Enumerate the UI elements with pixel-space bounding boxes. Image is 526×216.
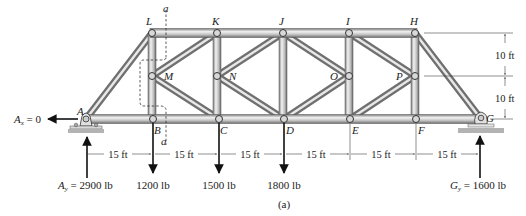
node-label-N: N — [228, 70, 237, 82]
reaction-Ax: Ax = 0 — [13, 113, 78, 127]
truss-diagram: a a L K J I H M N O P A B C D E F G — [0, 0, 526, 216]
node-label-A: A — [76, 105, 84, 117]
svg-text:Ax = 0: Ax = 0 — [13, 113, 42, 127]
svg-text:Gy = 1600 lb: Gy = 1600 lb — [450, 179, 507, 193]
vertical-dim-label-top: 10 ft — [495, 50, 515, 61]
applied-loads: 1200 lb 1500 lb 1800 lb — [136, 123, 301, 191]
node-label-L: L — [145, 15, 152, 27]
node-label-B: B — [154, 124, 161, 136]
node-label-G: G — [486, 112, 494, 124]
horizontal-dimension-labels: 15 ft 15 ft 15 ft 15 ft 15 ft 15 ft — [108, 149, 457, 160]
node-label-J: J — [279, 15, 285, 27]
reaction-Ay: Ay = 2900 lb — [57, 137, 113, 193]
load-label-D: 1800 lb — [267, 179, 301, 191]
svg-text:15 ft: 15 ft — [437, 149, 457, 160]
svg-text:Ay = 2900 lb: Ay = 2900 lb — [57, 179, 113, 193]
load-label-C: 1500 lb — [202, 179, 236, 191]
ground-A — [68, 129, 104, 133]
section-label-bottom: a — [161, 135, 167, 147]
node-label-I: I — [345, 15, 351, 27]
node-label-C: C — [220, 124, 228, 136]
svg-text:15 ft: 15 ft — [174, 149, 194, 160]
svg-text:15 ft: 15 ft — [240, 149, 260, 160]
ground-G — [458, 128, 504, 133]
node-label-E: E — [351, 124, 359, 136]
node-label-K: K — [211, 15, 220, 27]
load-label-B: 1200 lb — [136, 179, 170, 191]
reaction-Gy: Gy = 1600 lb — [450, 136, 507, 193]
node-label-H: H — [409, 15, 419, 27]
svg-text:15 ft: 15 ft — [108, 149, 128, 160]
svg-text:15 ft: 15 ft — [306, 149, 326, 160]
figure-caption: (a) — [278, 198, 291, 211]
node-label-M: M — [163, 70, 174, 82]
node-label-D: D — [285, 124, 294, 136]
node-label-F: F — [417, 124, 425, 136]
member-JD — [279, 33, 287, 119]
svg-text:15 ft: 15 ft — [371, 149, 391, 160]
vertical-dim-label-bottom: 10 ft — [495, 93, 515, 104]
node-label-P: P — [395, 70, 403, 82]
section-label-top: a — [163, 2, 169, 14]
node-label-O: O — [330, 70, 338, 82]
vertical-members — [148, 33, 419, 119]
